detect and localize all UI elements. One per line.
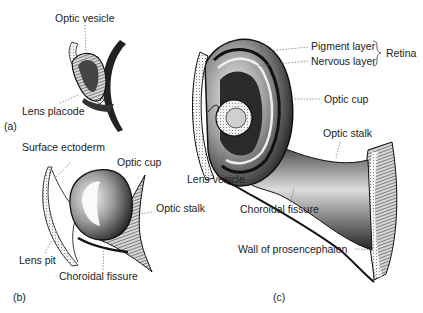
label-optic-stalk-c: Optic stalk [323, 128, 372, 139]
panel-b-drawing [43, 163, 152, 272]
label-choroidal-fissure-b: Choroidal fissure [59, 271, 138, 282]
label-choroidal-fissure-c: Choroidal fissure [240, 204, 319, 215]
label-optic-cup-b: Optic cup [117, 157, 161, 168]
label-retina: Retina [386, 48, 416, 59]
label-lens-placode: Lens placode [22, 106, 84, 117]
label-nervous-layer: Nervous layer [311, 56, 376, 67]
label-optic-vesicle: Optic vesicle [55, 13, 115, 24]
label-optic-cup-c: Optic cup [324, 94, 368, 105]
panel-label-b: (b) [13, 292, 26, 303]
panel-label-c: (c) [273, 292, 285, 303]
label-wall-of-prosencephalon: Wall of prosencephalon [238, 244, 347, 255]
label-lens-vesicle: Lens vesicle [187, 174, 245, 185]
label-surface-ectoderm: Surface ectoderm [22, 142, 105, 153]
label-optic-stalk-b: Optic stalk [156, 203, 205, 214]
label-pigment-layer: Pigment layer [311, 41, 375, 52]
label-lens-pit: Lens pit [19, 255, 56, 266]
panel-label-a: (a) [4, 121, 17, 132]
